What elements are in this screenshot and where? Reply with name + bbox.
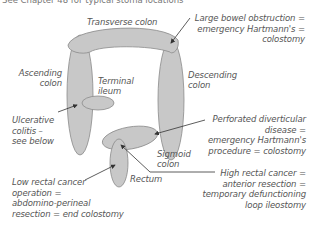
note-low-rectal-cancer: Low rectal cancer operation = abdomino-p… <box>12 177 124 219</box>
descending-colon-shape <box>158 40 184 160</box>
label-ascending-colon: Ascending colon <box>14 68 62 88</box>
transverse-colon-shape <box>68 28 178 53</box>
note-large-bowel-obstruction: Large bowel obstruction = emergency Hart… <box>190 13 305 45</box>
sigmoid-colon-shape <box>101 122 160 153</box>
terminal-ileum-shape <box>82 96 114 110</box>
label-descending-colon: Descending colon <box>188 70 237 90</box>
arrow-large-bowel <box>171 18 190 43</box>
label-transverse-colon: Transverse colon <box>87 17 157 27</box>
note-ulcerative-colitis: Ulcerative colitis – see below <box>12 115 54 147</box>
label-rectum: Rectum <box>130 174 162 184</box>
label-sigmoid-colon: Sigmoid colon <box>157 149 191 169</box>
note-high-rectal-cancer: High rectal cancer = anterior resection … <box>195 168 306 210</box>
label-terminal-ileum: Terminal ileum <box>98 76 134 96</box>
note-perforated-diverticular: Perforated diverticular disease = emerge… <box>200 114 306 156</box>
